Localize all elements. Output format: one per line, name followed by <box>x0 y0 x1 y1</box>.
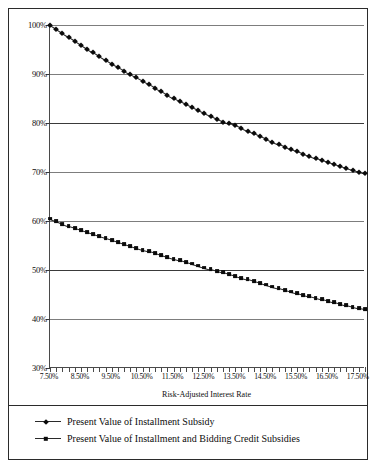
data-point-square <box>190 262 194 266</box>
data-point-square <box>110 238 114 242</box>
data-point-square <box>252 279 256 283</box>
data-point-square <box>128 244 132 248</box>
data-point-square <box>215 269 219 273</box>
data-point-square <box>320 297 324 301</box>
y-axis-tick-label: 30% <box>32 364 47 373</box>
gridline <box>50 270 364 271</box>
x-axis-tick-label: 16.50% <box>316 372 338 381</box>
x-axis-title: Risk-Adjusted Interest Rate <box>49 390 364 400</box>
data-point-square <box>67 224 71 228</box>
data-point-square <box>79 228 83 232</box>
data-point-square <box>178 258 182 262</box>
x-axis-tick-label: 9.50% <box>102 372 120 381</box>
x-axis-tick-label: 13.50% <box>223 372 245 381</box>
plot-area: 100%90%80%70%60%50%40%30% <box>49 25 364 368</box>
y-axis-tick-label: 50% <box>32 266 47 275</box>
data-point-square <box>116 240 120 244</box>
data-point-square <box>172 257 176 261</box>
data-point-square <box>73 226 77 230</box>
data-point-square <box>363 307 367 311</box>
data-point-square <box>104 236 108 240</box>
legend-label: Present Value of Installment and Bidding… <box>67 433 300 445</box>
data-point-square <box>60 222 64 226</box>
x-axis-tick-label: 7.50% <box>40 372 58 381</box>
y-axis-tick-label: 90% <box>32 70 47 79</box>
data-point-square <box>147 249 151 253</box>
y-axis-tick-label: 70% <box>32 168 47 177</box>
x-axis-labels: 7.50%8.50%9.50%10.50%11.50%12.50%13.50%1… <box>49 372 364 384</box>
x-axis-tick-label: 12.50% <box>192 372 214 381</box>
data-point-square <box>326 299 330 303</box>
x-axis-tick-label: 8.50% <box>71 372 89 381</box>
data-point-square <box>54 219 58 223</box>
data-point-square <box>159 253 163 257</box>
data-point-square <box>203 266 207 270</box>
y-axis-tick-label: 60% <box>32 217 47 226</box>
data-point-square <box>277 286 281 290</box>
data-point-square <box>98 234 102 238</box>
gridline <box>50 25 364 26</box>
data-point-diamond <box>362 171 367 176</box>
data-point-diamond <box>319 158 324 163</box>
data-point-square <box>184 260 188 264</box>
legend-label: Present Value of Installment Subsidy <box>67 416 215 428</box>
data-point-square <box>338 302 342 306</box>
data-point-square <box>233 274 237 278</box>
gridline <box>50 74 364 75</box>
legend-divider <box>9 405 367 406</box>
data-point-square <box>264 283 268 287</box>
data-point-square <box>91 232 95 236</box>
data-point-square <box>141 248 145 252</box>
x-axis-tick-label: 17.50% <box>347 372 369 381</box>
data-point-square <box>308 295 312 299</box>
figure-frame: 100%90%80%70%60%50%40%30% 7.50%8.50%9.50… <box>8 8 368 460</box>
gridline <box>50 221 364 222</box>
data-point-square <box>258 281 262 285</box>
data-point-square <box>240 276 244 280</box>
y-axis-tick-label: 100% <box>28 21 47 30</box>
square-marker-icon <box>35 434 61 444</box>
x-axis-tick-label: 11.50% <box>162 372 184 381</box>
y-axis-tick-label: 40% <box>32 315 47 324</box>
data-point-square <box>357 306 361 310</box>
gridline <box>50 172 364 173</box>
data-point-square <box>165 255 169 259</box>
data-point-square <box>270 285 274 289</box>
data-point-diamond <box>325 160 330 165</box>
legend-item-installment-and-bidding-credit-subsidies: Present Value of Installment and Bidding… <box>9 430 367 447</box>
data-point-square <box>221 271 225 275</box>
data-point-square <box>301 293 305 297</box>
legend-item-installment-subsidy: Present Value of Installment Subsidy <box>9 413 367 430</box>
data-point-diamond <box>356 169 361 174</box>
data-point-square <box>48 217 52 221</box>
data-point-diamond <box>295 149 300 154</box>
data-point-square <box>246 277 250 281</box>
y-axis-tick-label: 80% <box>32 119 47 128</box>
data-point-square <box>209 267 213 271</box>
x-axis-tick-label: 14.50% <box>254 372 276 381</box>
gridline <box>50 319 364 320</box>
diamond-marker-icon <box>35 417 61 427</box>
data-point-square <box>135 246 139 250</box>
gridline <box>50 123 364 124</box>
data-point-square <box>295 291 299 295</box>
data-point-square <box>227 273 231 277</box>
data-point-square <box>196 264 200 268</box>
data-point-square <box>283 288 287 292</box>
data-point-diamond <box>313 156 318 161</box>
x-axis-tick-label: 15.50% <box>285 372 307 381</box>
data-point-square <box>289 290 293 294</box>
data-point-square <box>314 296 318 300</box>
data-point-square <box>345 303 349 307</box>
data-point-square <box>332 300 336 304</box>
chart-legend: Present Value of Installment Subsidy Pre… <box>9 413 367 447</box>
data-point-square <box>153 251 157 255</box>
data-point-diamond <box>227 121 232 126</box>
x-axis-tick-label: 10.50% <box>131 372 153 381</box>
plot-shell: 100%90%80%70%60%50%40%30% 7.50%8.50%9.50… <box>9 9 367 459</box>
data-point-square <box>122 242 126 246</box>
data-point-square <box>85 230 89 234</box>
data-point-square <box>351 305 355 309</box>
